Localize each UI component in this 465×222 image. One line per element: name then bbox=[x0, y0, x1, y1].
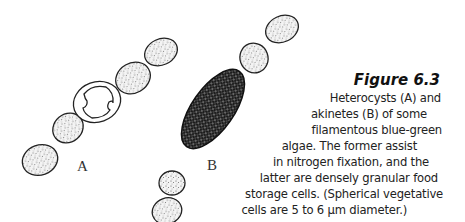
vegetative-cell bbox=[261, 10, 303, 48]
caption-line: in nitrogen fixation, and the bbox=[273, 155, 429, 169]
caption-line: storage cells. (Spherical vegetative bbox=[245, 187, 443, 201]
vegetative-cell bbox=[18, 140, 62, 181]
vegetative-cell bbox=[148, 194, 185, 222]
caption-line: filamentous blue-green bbox=[312, 123, 442, 137]
caption-line: akinetes (B) of some bbox=[311, 107, 427, 121]
caption-line: Heterocysts (A) and bbox=[330, 91, 441, 105]
caption-line: latter are densely granular food bbox=[260, 171, 438, 185]
label-b: B bbox=[207, 157, 217, 174]
akinete bbox=[169, 59, 256, 158]
caption-line: cells are 5 to 6 µm diameter.) bbox=[241, 203, 407, 217]
caption-line: algae. The former assist bbox=[282, 139, 417, 153]
figure-title: Figure 6.3 bbox=[354, 71, 440, 89]
vegetative-cell bbox=[159, 171, 185, 195]
filament-a bbox=[18, 33, 182, 180]
vegetative-cell bbox=[236, 39, 273, 77]
label-a: A bbox=[77, 158, 88, 175]
